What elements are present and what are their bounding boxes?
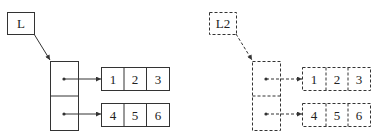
left-labels: L 1 2 3 4 5 6 [17,16,162,123]
cell-value: 2 [334,72,341,87]
cell-value: 3 [356,72,363,87]
cell-value: 1 [311,72,318,87]
right-labels: L2 1 2 3 4 5 6 [216,16,363,123]
pointer-arrow-L [34,34,50,60]
cell-value: 3 [155,72,162,87]
right-structure [210,13,371,131]
variable-label-L2: L2 [216,16,230,31]
cell-value: 4 [110,108,117,123]
cell-value: 6 [356,108,363,123]
cell-value: 2 [132,72,139,87]
left-structure [8,13,170,131]
outer-list-box-copy [253,62,281,131]
pointer-arrow-L2 [236,34,252,60]
variable-label-L: L [17,16,25,31]
cell-value: 5 [334,108,341,123]
cell-value: 6 [155,108,162,123]
cell-value: 1 [110,72,117,87]
diagram-canvas: L 1 2 3 4 5 6 L2 1 2 3 4 5 6 [0,0,374,139]
cell-value: 5 [132,108,139,123]
cell-value: 4 [311,108,318,123]
